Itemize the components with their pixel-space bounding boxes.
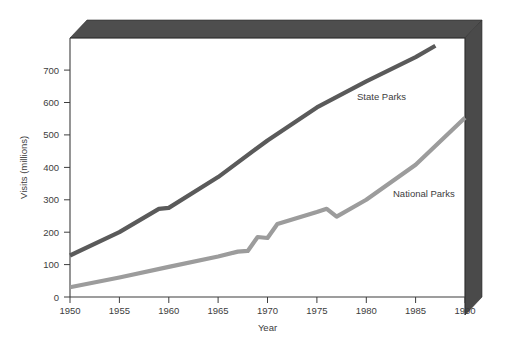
series-label-state-parks: State Parks <box>357 91 406 102</box>
x-tick-label-1955: 1955 <box>109 305 130 316</box>
y-tick-label-300: 300 <box>43 194 59 205</box>
x-tick-label-1985: 1985 <box>405 305 426 316</box>
y-tick-label-600: 600 <box>43 97 59 108</box>
y-tick-label-200: 200 <box>43 227 59 238</box>
y-tick-label-700: 700 <box>43 65 59 76</box>
series-label-national-parks: National Parks <box>393 188 455 199</box>
frame-right-slab <box>465 20 482 315</box>
y-tick-label-100: 100 <box>43 259 59 270</box>
chart-container: 700 600 500 400 300 200 100 0 Visits (mi… <box>0 0 513 338</box>
x-axis-ticks <box>70 297 465 303</box>
x-tick-label-1960: 1960 <box>158 305 179 316</box>
x-tick-label-1980: 1980 <box>356 305 377 316</box>
x-tick-label-1975: 1975 <box>306 305 327 316</box>
visits-line-chart: 700 600 500 400 300 200 100 0 Visits (mi… <box>0 0 513 338</box>
y-tick-label-0: 0 <box>54 292 59 303</box>
x-tick-label-1950: 1950 <box>59 305 80 316</box>
y-tick-label-400: 400 <box>43 162 59 173</box>
y-tick-label-500: 500 <box>43 129 59 140</box>
series-line-national-parks <box>70 118 465 288</box>
x-tick-label-1990: 1990 <box>454 305 475 316</box>
y-axis-ticks <box>64 70 70 297</box>
x-tick-label-1970: 1970 <box>257 305 278 316</box>
x-axis-title: Year <box>258 322 277 333</box>
series-line-state-parks <box>70 46 435 256</box>
frame-top-slab <box>70 20 482 38</box>
x-tick-label-1965: 1965 <box>208 305 229 316</box>
y-axis-title: Visits (millions) <box>18 136 29 199</box>
